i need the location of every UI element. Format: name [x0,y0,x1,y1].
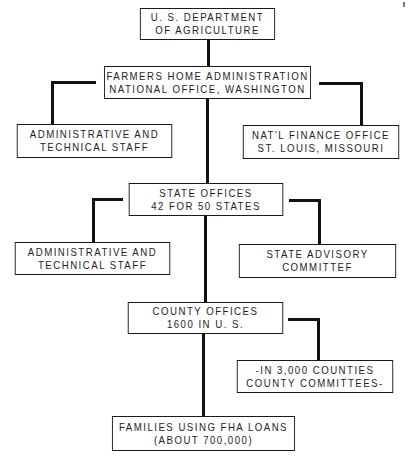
admin-staff-national-line2: TECHNICAL STAFF [40,141,149,154]
state-advisory-committee-box: STATE ADVISORY COMMITTEF [239,244,396,278]
connector-county-right-vertical [317,318,320,361]
finance-office-line1: NAT'L FINANCE OFFICE [252,129,390,142]
connector-fha-right-vertical [360,82,363,126]
fha-national-line2: NATIONAL OFFICE, WASHINGTON [109,83,305,96]
county-offices-line2: 1600 IN U. S. [167,318,244,331]
county-committees-line2: COUNTY COMMITTEES- [246,377,383,390]
connector-fha-left-vertical [51,81,54,125]
connector-usda-to-fha [207,39,210,67]
connector-fha-to-state [206,98,209,184]
county-offices-box: COUNTY OFFICES 1600 IN U. S. [128,302,283,334]
state-offices-box: STATE OFFICES 42 FOR 50 STATES [129,183,284,216]
county-offices-line1: COUNTY OFFICES [153,305,259,318]
scan-mark [403,2,405,7]
admin-staff-national-line1: ADMINISTRATIVE AND [30,128,159,141]
families-line2: (ABOUT 700,000) [154,434,253,447]
usda-box: U. S. DEPARTMENT OF AGRICULTURE [140,8,275,40]
connector-state-to-county [204,215,207,303]
org-chart: U. S. DEPARTMENT OF AGRICULTURE FARMERS … [0,0,413,457]
admin-staff-state-line2: TECHNICAL STAFF [38,259,147,272]
connector-state-left-vertical [92,198,95,243]
county-committees-box: -IN 3,000 COUNTIES COUNTY COMMITTEES- [237,360,393,393]
county-committees-line1: -IN 3,000 COUNTIES [256,364,375,377]
usda-line2: OF AGRICULTURE [155,24,260,37]
connector-state-right-vertical [318,199,321,245]
connector-county-to-families [202,333,205,417]
families-line1: FAMILIES USING FHA LOANS [119,421,288,434]
admin-staff-state-box: ADMINISTRATIVE AND TECHNICAL STAFF [15,242,170,275]
fha-national-line1: FARMERS HOME ADMINISTRATION [106,70,308,83]
state-advisory-line2: COMMITTEF [282,261,353,274]
connector-state-right-horizontal [289,199,321,202]
state-offices-line1: STATE OFFICES [159,187,252,200]
families-box: FAMILIES USING FHA LOANS (ABOUT 700,000) [112,416,295,451]
state-advisory-line1: STATE ADVISORY [266,248,368,261]
admin-staff-state-line1: ADMINISTRATIVE AND [28,246,157,259]
finance-office-line2: ST. LOUIS, MISSOURI [258,142,385,155]
connector-county-right-horizontal [288,318,320,321]
connector-fha-right-horizontal [319,82,363,85]
fha-national-office-box: FARMERS HOME ADMINISTRATION NATIONAL OFF… [104,66,311,99]
usda-line1: U. S. DEPARTMENT [151,11,264,24]
connector-fha-left-horizontal [51,81,96,84]
finance-office-box: NAT'L FINANCE OFFICE ST. LOUIS, MISSOURI [243,125,399,159]
connector-state-left-horizontal [92,198,123,201]
state-offices-line2: 42 FOR 50 STATES [151,200,261,213]
admin-staff-national-box: ADMINISTRATIVE AND TECHNICAL STAFF [17,124,172,158]
